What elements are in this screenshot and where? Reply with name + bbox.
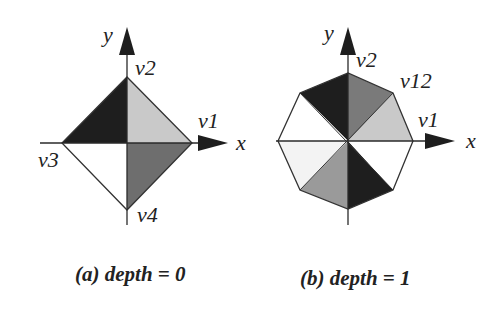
vertex-label-v1: v1 <box>418 107 439 132</box>
x-axis-label: x <box>235 130 246 155</box>
depth-diagram: y x v2 v1 v3 v4 y x v2 v12 v1 (a) depth … <box>0 0 497 318</box>
vertex-label-v4: v4 <box>137 202 158 227</box>
y-axis-arrow-icon <box>119 27 135 55</box>
y-axis-label: y <box>322 20 334 45</box>
figure-b: y x v2 v12 v1 <box>276 20 476 225</box>
y-axis-arrow-icon <box>340 27 356 55</box>
vertex-label-v3: v3 <box>38 147 59 172</box>
vertex-label-v1: v1 <box>198 108 219 133</box>
caption-a: (a) depth = 0 <box>75 262 186 286</box>
y-axis-label: y <box>101 22 113 47</box>
figure-a: y x v2 v1 v3 v4 <box>38 22 246 227</box>
vertex-label-v12: v12 <box>400 68 432 93</box>
x-axis-arrow-icon <box>198 135 228 151</box>
vertex-label-v2: v2 <box>135 55 156 80</box>
x-axis-arrow-icon <box>425 133 455 149</box>
vertex-label-v2: v2 <box>356 47 377 72</box>
x-axis-label: x <box>465 128 476 153</box>
caption-b: (b) depth = 1 <box>300 266 411 290</box>
